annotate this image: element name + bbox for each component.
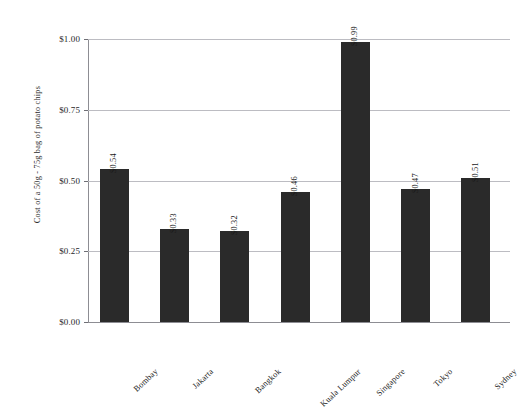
y-tick-label: $0.50 — [34, 176, 80, 186]
gridline-075 — [88, 110, 510, 111]
bar-value-label: $0.99 — [350, 26, 359, 46]
gridline-000 — [88, 322, 510, 323]
top-caption-text — [28, 0, 498, 6]
x-category-label: Sydney — [493, 367, 518, 392]
y-tick-label: $1.00 — [34, 34, 80, 44]
bar-value-label: $0.54 — [109, 153, 118, 173]
gridline-100 — [88, 39, 510, 40]
y-tick-mark — [84, 110, 88, 111]
plot-area: $1.00$0.75$0.50$0.25$0.00$0.54Bombay$0.3… — [88, 39, 510, 322]
bar-value-label: $0.51 — [471, 162, 480, 182]
x-category-label: Tokyo — [432, 367, 454, 389]
bar — [220, 231, 249, 322]
bar-value-label: $0.46 — [290, 176, 299, 196]
y-tick-mark — [84, 251, 88, 252]
y-tick-label: $0.25 — [34, 246, 80, 256]
bar — [100, 169, 129, 322]
bar — [401, 189, 430, 322]
bar — [160, 229, 189, 322]
x-category-label: Singapore — [375, 367, 407, 398]
y-tick-label: $0.00 — [34, 317, 80, 327]
x-category-label: Kuala Lumpur — [319, 367, 363, 409]
bar-value-label: $0.47 — [411, 173, 420, 193]
bar — [341, 42, 370, 322]
bar-value-label: $0.32 — [230, 216, 239, 236]
x-category-label: Bangkok — [253, 367, 282, 395]
y-tick-label: $0.75 — [34, 105, 80, 115]
gridline-050 — [88, 181, 510, 182]
bar — [461, 178, 490, 322]
y-tick-mark — [84, 181, 88, 182]
bar-value-label: $0.33 — [169, 213, 178, 233]
y-tick-mark — [84, 322, 88, 323]
y-axis-title: Cost of a 50g - 75g bag of potato chips — [33, 40, 42, 270]
x-category-label: Bombay — [132, 367, 160, 394]
x-category-label: Jakarta — [191, 367, 216, 391]
y-tick-mark — [84, 39, 88, 40]
bar — [281, 192, 310, 322]
